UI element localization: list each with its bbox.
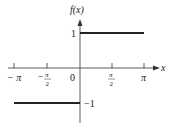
y-axis-label: f(x): [70, 4, 85, 16]
tick-label-zero: 0: [70, 72, 75, 83]
tick-label-neg-half-pi-minus: −: [38, 71, 44, 82]
x-axis-label: x: [160, 62, 166, 73]
square-wave-plot: f(x) x − π − π 2 0 π 2 π 1 −1: [0, 0, 169, 127]
x-ticks: [14, 63, 144, 68]
tick-label-half-pi-num: π: [109, 71, 113, 79]
tick-label-half-pi-den: 2: [110, 80, 114, 88]
y-tick-label-neg-one: −1: [84, 98, 95, 109]
y-tick-label-one: 1: [71, 28, 76, 39]
x-axis-arrow-icon: [153, 66, 160, 71]
tick-label-pi: π: [141, 72, 147, 83]
tick-label-neg-pi: − π: [7, 72, 22, 83]
tick-label-neg-half-pi-den: 2: [46, 80, 50, 88]
tick-label-neg-half-pi-num: π: [45, 71, 49, 79]
y-axis-arrow-icon: [78, 19, 83, 26]
